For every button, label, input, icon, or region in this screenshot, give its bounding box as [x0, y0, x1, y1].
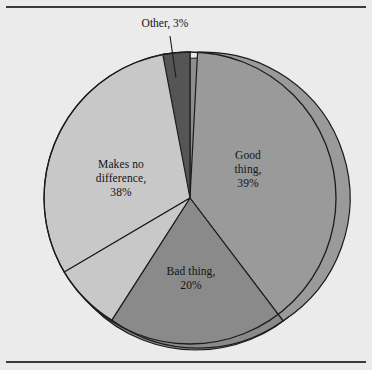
pie-chart-svg	[0, 0, 372, 370]
slice-label-good-thing: Good thing, 39%	[215, 148, 281, 190]
slice-label-makes-no-difference-line1: Makes no	[66, 157, 176, 171]
slice-label-bad-thing-line2: 20%	[139, 278, 243, 292]
slice-label-bad-thing-line1: Bad thing,	[139, 264, 243, 278]
slice-label-other: Other, 3%	[105, 16, 225, 30]
slice-label-makes-no-difference-line2: difference,	[66, 171, 176, 185]
slice-label-good-thing-line3: 39%	[215, 176, 281, 190]
slice-label-good-thing-line2: thing,	[215, 162, 281, 176]
pie-chart-figure: Other, 3% Good thing, 39% Makes no diffe…	[0, 0, 372, 370]
slice-label-good-thing-line1: Good	[215, 148, 281, 162]
slice-label-other-line1: Other, 3%	[105, 16, 225, 30]
slice-label-makes-no-difference: Makes no difference, 38%	[66, 157, 176, 199]
chart-plot-area: Other, 3% Good thing, 39% Makes no diffe…	[0, 0, 372, 370]
slice-label-bad-thing: Bad thing, 20%	[139, 264, 243, 292]
slice-label-makes-no-difference-line3: 38%	[66, 185, 176, 199]
